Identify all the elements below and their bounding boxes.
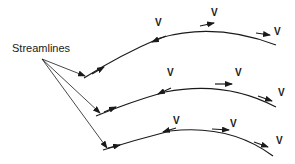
- pointer-arrow-2: [42, 59, 100, 113]
- streamlines-diagram: Streamlines V V V V V V V V V: [0, 0, 295, 164]
- streamlines-figure: [0, 0, 295, 164]
- streamline-1: [84, 23, 276, 78]
- velocity-label: V: [235, 67, 242, 78]
- velocity-label: V: [173, 115, 180, 126]
- velocity-label: V: [167, 67, 174, 78]
- velocity-label: V: [230, 118, 237, 129]
- velocity-label: V: [278, 87, 285, 98]
- velocity-label: V: [211, 7, 218, 18]
- streamline-2: [96, 84, 276, 116]
- label-pointer-lines: [42, 59, 107, 148]
- streamlines-label: Streamlines: [12, 42, 70, 54]
- streamline-3: [103, 128, 273, 156]
- velocity-label: V: [276, 135, 283, 146]
- pointer-arrow-3: [42, 59, 107, 148]
- velocity-label: V: [155, 17, 162, 28]
- velocity-label: V: [274, 26, 281, 37]
